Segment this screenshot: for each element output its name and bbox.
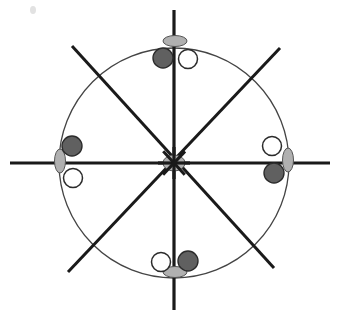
dark-filled-marker-top-left-of-vertical (153, 48, 173, 68)
open-marker-top-right-of-vertical (179, 50, 198, 69)
dark-filled-marker-bottom-right-of-vertical (178, 251, 198, 271)
open-marker-left-lower (64, 169, 83, 188)
artifact-layer (30, 6, 36, 14)
radial-axis-circle-diagram (0, 0, 339, 318)
open-marker-bottom-left-of-vertical (152, 253, 171, 272)
gray-ellipse-marker-top (163, 36, 187, 47)
dark-filled-marker-right-lower (264, 163, 284, 183)
gray-ellipse-marker-right (283, 148, 294, 172)
speck-artifact (30, 6, 36, 14)
center-node-layer (158, 147, 190, 179)
dark-filled-marker-left-upper (62, 136, 82, 156)
diagram-canvas (0, 0, 339, 318)
open-marker-right-upper (263, 137, 282, 156)
